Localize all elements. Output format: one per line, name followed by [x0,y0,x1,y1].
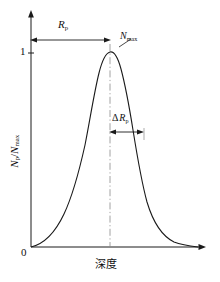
origin-label: 0 [21,247,27,258]
nmax-label-subscript: max [127,35,138,42]
implantation-depth-profile-figure: Rp Nmax Δ Rp 1 0 深度 Np/Nmax [0,0,220,282]
y-axis-label: Np/Nmax [9,115,22,187]
y-axis-label-separator: / [8,154,20,157]
rp-label-subscript: p [65,24,68,31]
y-axis-label-numerator-subscript: p [13,157,20,160]
rp-dimension-arrow [30,37,111,42]
delta-rp-dimension-arrow [109,128,144,140]
delta-rp-label: Δ Rp [112,113,128,124]
nmax-label: Nmax [120,31,137,42]
y-axis-tick-label-1: 1 [20,46,26,57]
y-axis-label-denominator-subscript: max [13,135,20,147]
delta-rp-label-subscript: p [125,117,128,124]
y-axis [28,10,34,247]
implant-profile-curve [31,52,198,247]
x-axis-label: 深度 [95,259,117,270]
rp-label: Rp [58,19,68,32]
plot-canvas [0,0,220,282]
x-axis [31,244,206,250]
